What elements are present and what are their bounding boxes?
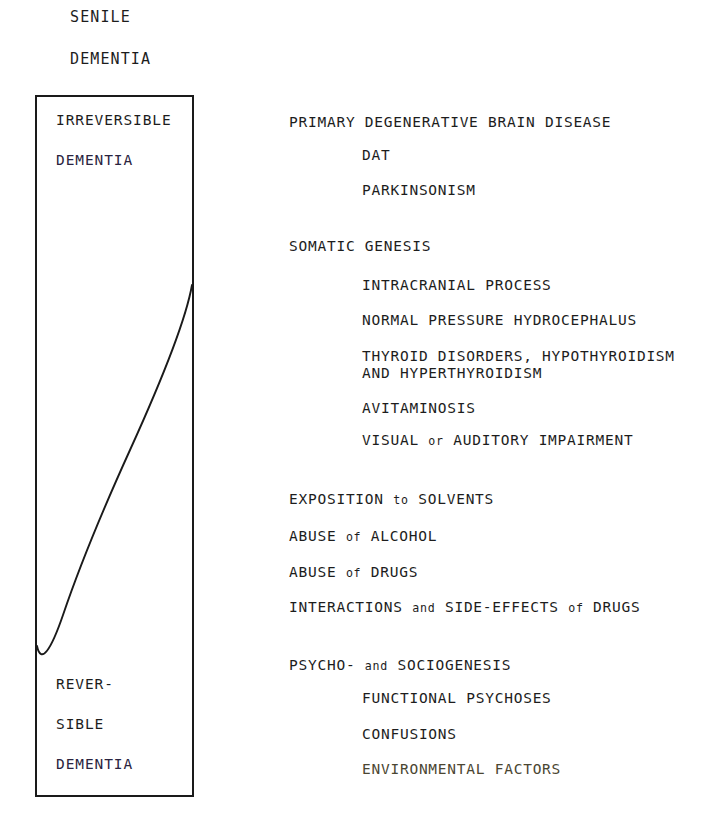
cause-text: NORMAL PRESSURE HYDROCEPHALUS xyxy=(362,312,637,328)
cause-list-item: PRIMARY DEGENERATIVE BRAIN DISEASE xyxy=(289,114,611,130)
cause-text: SOCIOGENESIS xyxy=(388,657,511,673)
connector-word: to xyxy=(393,493,408,507)
box-label-reversible-line-3: DEMENTIA xyxy=(56,756,133,772)
cause-list-item: DAT xyxy=(362,147,390,163)
connector-word: of xyxy=(346,530,361,544)
connector-word: of xyxy=(346,566,361,580)
cause-text: VISUAL xyxy=(362,432,428,448)
cause-text: THYROID DISORDERS, HYPOTHYROIDISM xyxy=(362,348,675,364)
cause-list-item: INTERACTIONS and SIDE-EFFECTS of DRUGS xyxy=(289,599,641,615)
cause-text: INTERACTIONS xyxy=(289,599,412,615)
cause-list-item: FUNCTIONAL PSYCHOSES xyxy=(362,690,552,706)
cause-text: PSYCHO- xyxy=(289,657,365,673)
cause-list-item: THYROID DISORDERS, HYPOTHYROIDISMAND HYP… xyxy=(362,348,675,381)
connector-word: or xyxy=(428,434,443,448)
cause-list-item: AVITAMINOSIS xyxy=(362,400,476,416)
cause-text: INTRACRANIAL PROCESS xyxy=(362,277,552,293)
cause-text: FUNCTIONAL PSYCHOSES xyxy=(362,690,552,706)
box-label-irreversible-line-2: DEMENTIA xyxy=(56,152,133,168)
cause-text: AVITAMINOSIS xyxy=(362,400,476,416)
cause-text: ENVIRONMENTAL FACTORS xyxy=(362,761,561,777)
cause-text: DRUGS xyxy=(361,564,418,580)
box-label-reversible-line-2: SIBLE xyxy=(56,716,104,732)
cause-list-item: EXPOSITION to SOLVENTS xyxy=(289,491,494,507)
cause-text: SOLVENTS xyxy=(409,491,494,507)
cause-text: AUDITORY IMPAIRMENT xyxy=(444,432,634,448)
cause-text: DRUGS xyxy=(584,599,641,615)
cause-text-continuation: AND HYPERTHYROIDISM xyxy=(362,365,675,381)
cause-list-item: ABUSE of DRUGS xyxy=(289,564,418,580)
cause-text: ABUSE xyxy=(289,528,346,544)
cause-text: PRIMARY DEGENERATIVE BRAIN DISEASE xyxy=(289,114,611,130)
cause-list-item: SOMATIC GENESIS xyxy=(289,238,431,254)
diagram-page: SENILE DEMENTIA IRREVERSIBLE DEMENTIA RE… xyxy=(0,0,721,823)
figure-title-line-1: SENILE xyxy=(70,10,131,25)
cause-list-item: CONFUSIONS xyxy=(362,726,457,742)
cause-text: ALCOHOL xyxy=(361,528,437,544)
cause-text: EXPOSITION xyxy=(289,491,393,507)
cause-text: DAT xyxy=(362,147,390,163)
connector-word: of xyxy=(568,601,583,615)
cause-list-item: PARKINSONISM xyxy=(362,182,476,198)
connector-word: and xyxy=(365,659,388,673)
connector-word: and xyxy=(412,601,435,615)
cause-text: ABUSE xyxy=(289,564,346,580)
cause-text: PARKINSONISM xyxy=(362,182,476,198)
cause-list-item: PSYCHO- and SOCIOGENESIS xyxy=(289,657,511,673)
cause-list-item: ENVIRONMENTAL FACTORS xyxy=(362,761,561,777)
cause-text: CONFUSIONS xyxy=(362,726,457,742)
cause-list-item: INTRACRANIAL PROCESS xyxy=(362,277,552,293)
cause-text: SIDE-EFFECTS xyxy=(435,599,568,615)
cause-text: SOMATIC GENESIS xyxy=(289,238,431,254)
figure-title-line-2: DEMENTIA xyxy=(70,52,151,67)
cause-list-item: ABUSE of ALCOHOL xyxy=(289,528,437,544)
box-label-irreversible-line-1: IRREVERSIBLE xyxy=(56,112,172,128)
cause-list-item: VISUAL or AUDITORY IMPAIRMENT xyxy=(362,432,633,448)
box-label-reversible-line-1: REVER- xyxy=(56,676,114,692)
cause-list-item: NORMAL PRESSURE HYDROCEPHALUS xyxy=(362,312,637,328)
